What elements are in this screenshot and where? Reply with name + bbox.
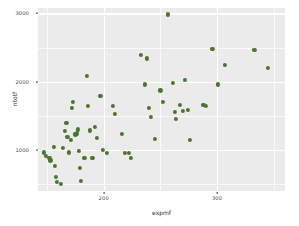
data-point xyxy=(210,47,214,51)
y-axis-title: ntotf xyxy=(11,69,18,129)
data-point xyxy=(77,149,81,153)
data-point xyxy=(223,62,227,66)
data-point xyxy=(173,110,177,114)
x-tick-mark xyxy=(103,192,104,194)
x-tick-label: 200 xyxy=(99,195,109,201)
gridline-minor-horizontal xyxy=(38,116,285,117)
x-tick-label: 300 xyxy=(212,195,222,201)
data-point xyxy=(139,53,143,57)
data-point xyxy=(66,150,70,154)
data-point xyxy=(69,137,73,141)
data-point xyxy=(161,100,165,104)
gridline-minor-horizontal xyxy=(38,184,285,185)
gridline-major-horizontal xyxy=(38,150,285,151)
x-axis-title: expmf xyxy=(38,209,285,216)
scatter-plot-figure: 100020003000200300 expmf ntotf xyxy=(0,0,299,226)
y-tick-mark xyxy=(36,13,38,14)
data-point xyxy=(82,156,86,160)
data-point xyxy=(88,128,92,132)
data-point xyxy=(171,81,175,85)
gridline-minor-vertical xyxy=(47,8,48,191)
data-point xyxy=(90,156,94,160)
data-point xyxy=(147,106,151,110)
gridline-major-horizontal xyxy=(38,13,285,14)
data-point xyxy=(158,88,162,92)
data-point xyxy=(79,179,83,183)
data-point xyxy=(178,103,182,107)
data-point xyxy=(204,104,208,108)
data-point xyxy=(74,131,78,135)
data-point xyxy=(142,82,146,86)
data-point xyxy=(59,181,63,185)
data-point xyxy=(86,104,90,108)
y-tick-label: 3000 xyxy=(0,10,29,16)
gridline-major-vertical xyxy=(217,8,218,191)
gridline-minor-vertical xyxy=(274,8,275,191)
data-point xyxy=(149,115,153,119)
data-point xyxy=(174,117,178,121)
data-point xyxy=(54,175,58,179)
data-point xyxy=(70,105,74,109)
data-point xyxy=(153,136,157,140)
data-point xyxy=(111,104,115,108)
data-point xyxy=(266,66,270,70)
data-point xyxy=(63,129,67,133)
gridline-minor-horizontal xyxy=(38,48,285,49)
gridline-major-vertical xyxy=(104,8,105,191)
data-point xyxy=(64,121,68,125)
data-point xyxy=(185,108,189,112)
data-point xyxy=(166,12,170,16)
data-point xyxy=(95,136,99,140)
x-tick-mark xyxy=(217,192,218,194)
data-point xyxy=(127,151,131,155)
data-point xyxy=(93,125,97,129)
data-point xyxy=(252,48,256,52)
data-point xyxy=(53,164,57,168)
data-point xyxy=(98,93,102,97)
data-point xyxy=(85,74,89,78)
data-point xyxy=(105,151,109,155)
plot-panel xyxy=(38,8,285,191)
data-point xyxy=(120,132,124,136)
y-tick-mark xyxy=(36,81,38,82)
data-point xyxy=(145,56,149,60)
data-point xyxy=(188,138,192,142)
gridline-major-horizontal xyxy=(38,82,285,83)
y-tick-label: 1000 xyxy=(0,147,29,153)
y-tick-mark xyxy=(36,149,38,150)
data-point xyxy=(71,100,75,104)
data-point xyxy=(52,145,56,149)
data-point xyxy=(48,158,52,162)
data-point xyxy=(78,166,82,170)
data-point xyxy=(76,127,80,131)
data-point xyxy=(129,156,133,160)
data-point xyxy=(216,82,220,86)
